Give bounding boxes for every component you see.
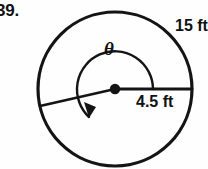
theta-arc-arrowhead — [84, 102, 96, 118]
theta-angle-label: θ — [104, 38, 114, 60]
radius-length-label: 4.5 ft — [136, 93, 173, 111]
arc-length-label: 15 ft — [175, 17, 208, 35]
figure-page: 39. 15 ft 4.5 ft θ — [0, 0, 208, 169]
problem-number: 39. — [0, 1, 19, 21]
center-dot — [110, 84, 120, 94]
